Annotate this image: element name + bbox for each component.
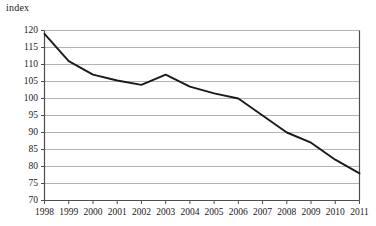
- y-tick-label: 105: [8, 76, 38, 86]
- plot-svg: [0, 0, 376, 226]
- gridlines: [45, 48, 360, 184]
- index-line-chart: index 120115110105100959085807570 199819…: [0, 0, 376, 226]
- y-tick-label: 70: [8, 195, 38, 205]
- y-tick-label: 100: [8, 93, 38, 103]
- y-tick-label: 95: [8, 110, 38, 120]
- plot-area: 120115110105100959085807570 199819992000…: [0, 0, 376, 226]
- y-tick-label: 120: [8, 25, 38, 35]
- y-tick-label: 85: [8, 144, 38, 154]
- x-tick-label: 2011: [344, 207, 376, 217]
- data-series-group: [45, 34, 360, 173]
- y-tick-label: 75: [8, 178, 38, 188]
- y-tick-label: 90: [8, 127, 38, 137]
- y-tick-label: 110: [8, 59, 38, 69]
- data-line-index: [45, 34, 360, 173]
- y-tick-label: 80: [8, 161, 38, 171]
- y-tick-label: 115: [8, 42, 38, 52]
